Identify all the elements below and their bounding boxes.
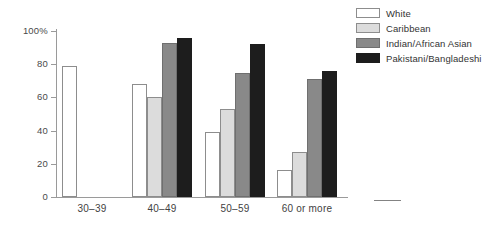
legend-swatch-icon-pakistani-bangladeshi	[356, 53, 380, 63]
y-axis-tick	[51, 164, 57, 165]
legend-label-indian-african-asian: Indian/African Asian	[386, 38, 472, 49]
bar	[235, 73, 250, 198]
legend-swatch-icon-white	[356, 8, 380, 18]
bar	[205, 132, 220, 197]
y-axis-tick-label: 20	[0, 159, 48, 169]
bar	[292, 152, 307, 197]
legend-item-indian-african-asian: Indian/African Asian	[356, 36, 474, 50]
legend-item-white: White	[356, 6, 474, 20]
bar	[62, 66, 77, 197]
y-axis-tick	[51, 31, 57, 32]
bar	[132, 84, 147, 197]
y-axis-tick-label: 60	[0, 92, 48, 102]
y-axis-tick-label: 80	[0, 59, 48, 69]
y-axis-tick	[51, 131, 57, 132]
y-axis-tick-label: 40	[0, 126, 48, 136]
y-axis-tick-label: 0	[0, 192, 48, 202]
bar	[177, 38, 192, 197]
y-axis-tick-label: 100%	[0, 26, 48, 36]
bar	[250, 44, 265, 197]
y-axis-tick	[51, 64, 57, 65]
bar	[277, 170, 292, 197]
bar	[147, 97, 162, 197]
y-axis-line	[56, 29, 57, 198]
x-axis-category-label: 60 or more	[255, 203, 359, 214]
bar	[322, 71, 337, 197]
legend-label-pakistani-bangladeshi: Pakistani/Bangladeshi	[386, 53, 482, 64]
y-axis-tick	[51, 97, 57, 98]
legend-label-caribbean: Caribbean	[386, 23, 431, 34]
legend-label-white: White	[386, 8, 411, 19]
legend-swatch-icon-caribbean	[356, 23, 380, 33]
bar	[220, 109, 235, 197]
x-axis-line	[56, 197, 348, 198]
bar	[162, 43, 177, 197]
legend: White Caribbean Indian/African Asian Pak…	[356, 6, 474, 66]
scan-artifact-line	[374, 200, 401, 201]
legend-item-caribbean: Caribbean	[356, 21, 474, 35]
legend-swatch-icon-indian-african-asian	[356, 38, 380, 48]
y-axis-tick	[51, 197, 57, 198]
legend-item-pakistani-bangladeshi: Pakistani/Bangladeshi	[356, 51, 474, 65]
bar	[307, 79, 322, 197]
